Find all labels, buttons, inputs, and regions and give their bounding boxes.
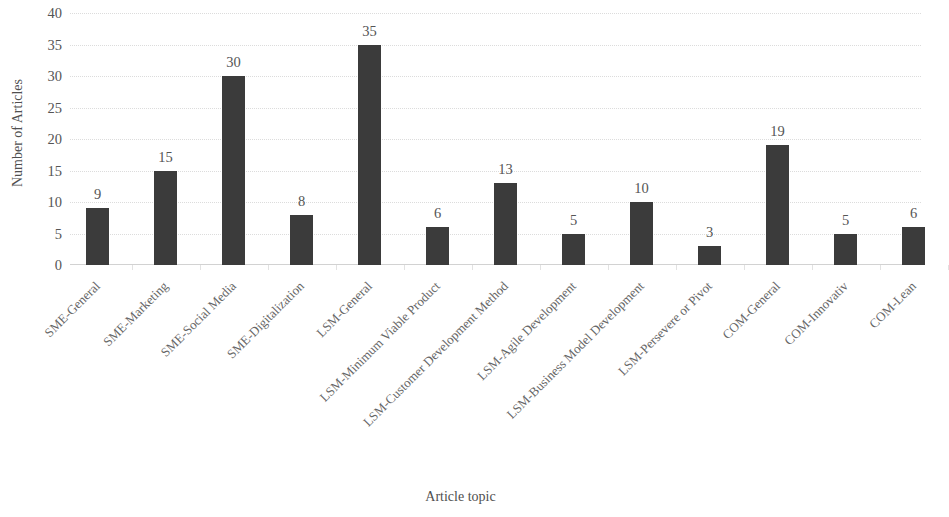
y-tick-label: 10 [28, 194, 62, 211]
bar-value-label: 10 [622, 180, 662, 197]
y-tick-label: 40 [28, 5, 62, 22]
x-axis-tick [948, 265, 949, 270]
y-tick-label: 5 [28, 225, 62, 242]
x-axis-category-label: LSM-Business Model Development [494, 278, 647, 431]
x-axis-category-label: COM-General [630, 278, 783, 431]
bar [698, 246, 721, 265]
bar [562, 234, 585, 266]
bar [222, 76, 245, 265]
x-axis-category-label: LSM-Persevere or Pivot [562, 278, 715, 431]
bar-value-label: 5 [554, 212, 594, 229]
y-tick-label: 15 [28, 162, 62, 179]
x-axis-category-label: LSM-Customer Development Method [358, 278, 511, 431]
y-tick-label: 25 [28, 99, 62, 116]
x-axis-category-label: LSM-General [222, 278, 375, 431]
x-axis-tick [200, 265, 201, 270]
bar-value-label: 15 [146, 149, 186, 166]
bar-value-label: 19 [758, 123, 798, 140]
bar-value-label: 5 [826, 212, 866, 229]
bar [154, 171, 177, 266]
x-axis-tick [880, 265, 881, 270]
gridline [70, 76, 921, 77]
bar-value-label: 35 [350, 23, 390, 40]
bar-value-label: 9 [78, 186, 118, 203]
x-axis-tick [744, 265, 745, 270]
y-tick-label: 35 [28, 36, 62, 53]
bar-value-label: 3 [690, 224, 730, 241]
x-axis-tick [132, 265, 133, 270]
bar [902, 227, 925, 265]
y-tick-label: 30 [28, 68, 62, 85]
bar-value-label: 30 [214, 54, 254, 71]
bar [426, 227, 449, 265]
bar [358, 45, 381, 266]
bar [494, 183, 517, 265]
x-axis-tick [676, 265, 677, 270]
bar-value-label: 6 [894, 205, 934, 222]
y-tick-label: 0 [28, 257, 62, 274]
bar-value-label: 6 [418, 205, 458, 222]
x-axis-category-label: SME-Digitalization [154, 278, 307, 431]
x-axis-tick [336, 265, 337, 270]
x-axis-tick [812, 265, 813, 270]
x-axis-category-label: LSM-Minimum Viable Product [290, 278, 443, 431]
x-axis-category-label: SME-Social Media [86, 278, 239, 431]
bar [630, 202, 653, 265]
x-axis-tick [404, 265, 405, 270]
x-axis-category-label: COM-Innovativ [698, 278, 851, 431]
gridline [70, 45, 921, 46]
x-axis-tick [472, 265, 473, 270]
x-axis-title: Article topic [0, 489, 921, 505]
x-axis-tick [608, 265, 609, 270]
x-axis-category-label: LSM-Agile Development [426, 278, 579, 431]
bar [290, 215, 313, 265]
gridline [70, 13, 921, 14]
x-axis-tick [540, 265, 541, 270]
bar [86, 208, 109, 265]
bar [834, 234, 857, 266]
x-axis-category-label: COM-Lean [766, 278, 919, 431]
y-tick-label: 20 [28, 131, 62, 148]
x-axis-tick [268, 265, 269, 270]
bar-value-label: 13 [486, 161, 526, 178]
gridline [70, 108, 921, 109]
x-axis-category-label: SME-Marketing [18, 278, 171, 431]
bar-value-label: 8 [282, 193, 322, 210]
y-axis-title: Number of Articles [10, 53, 26, 213]
bar [766, 145, 789, 265]
